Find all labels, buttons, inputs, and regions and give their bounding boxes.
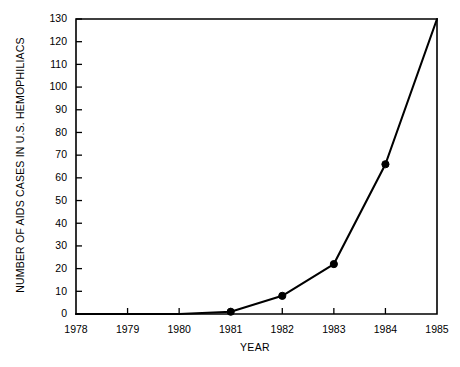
svg-text:1983: 1983 bbox=[322, 323, 346, 335]
x-axis-title: YEAR bbox=[75, 341, 435, 353]
svg-text:50: 50 bbox=[55, 194, 67, 206]
svg-text:1984: 1984 bbox=[374, 323, 398, 335]
svg-text:1978: 1978 bbox=[64, 323, 88, 335]
svg-text:60: 60 bbox=[55, 171, 67, 183]
svg-text:130: 130 bbox=[49, 12, 67, 24]
y-axis-tick-labels: 0102030405060708090100110120130 bbox=[49, 12, 67, 319]
svg-text:70: 70 bbox=[55, 148, 67, 160]
svg-text:10: 10 bbox=[55, 285, 67, 297]
svg-text:0: 0 bbox=[61, 307, 67, 319]
x-axis-tick-labels: 19781979198019811982198319841985 bbox=[64, 323, 449, 335]
svg-text:80: 80 bbox=[55, 126, 67, 138]
chart-container: NUMBER OF AIDS CASES IN U.S. HEMOPHILIAC… bbox=[0, 0, 460, 367]
line-chart-plot: 0102030405060708090100110120130 19781979… bbox=[0, 0, 460, 367]
svg-text:120: 120 bbox=[49, 35, 67, 47]
svg-text:1981: 1981 bbox=[219, 323, 243, 335]
svg-text:1980: 1980 bbox=[167, 323, 191, 335]
svg-text:100: 100 bbox=[49, 80, 67, 92]
svg-text:20: 20 bbox=[55, 262, 67, 274]
y-axis-tick-marks bbox=[76, 19, 82, 314]
svg-text:90: 90 bbox=[55, 103, 67, 115]
svg-text:30: 30 bbox=[55, 239, 67, 251]
svg-text:40: 40 bbox=[55, 217, 67, 229]
svg-text:1985: 1985 bbox=[425, 323, 449, 335]
svg-text:110: 110 bbox=[50, 58, 67, 70]
svg-text:1982: 1982 bbox=[271, 323, 295, 335]
data-point-markers bbox=[227, 161, 389, 316]
svg-text:1979: 1979 bbox=[116, 323, 140, 335]
